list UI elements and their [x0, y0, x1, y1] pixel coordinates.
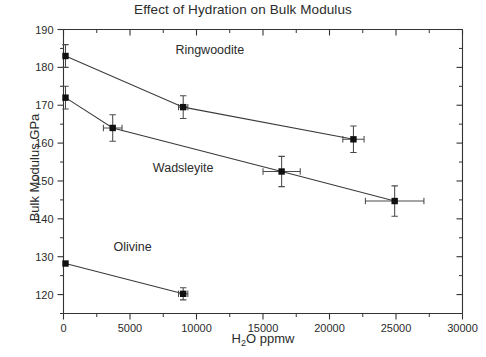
minor-tick-group [60, 30, 463, 318]
series-connector-line [66, 264, 184, 294]
y-tick-label: 120 [35, 289, 53, 301]
data-point-marker [110, 125, 116, 131]
x-axis-label-post: O ppmw [246, 331, 294, 346]
series-label-group: RingwooditeWadsleyiteOlivine [114, 43, 245, 254]
series-connector-line [66, 56, 354, 139]
tick-label-group: 0500010000150002000025000300001201301401… [35, 24, 478, 335]
data-point-marker [180, 291, 186, 297]
data-series [62, 260, 188, 300]
series-connector-line [66, 98, 395, 201]
x-axis-label-pre: H [232, 331, 241, 346]
data-point-marker [62, 260, 68, 266]
data-point-marker [278, 168, 284, 174]
major-tick-group [58, 30, 463, 320]
data-point-marker [350, 136, 356, 142]
y-axis-label: Bulk Modulus GPa [27, 68, 42, 268]
series-annotation-label: Ringwoodite [175, 43, 244, 57]
x-axis-label: H2O ppmw [63, 331, 463, 346]
y-tick-label: 190 [35, 24, 53, 36]
data-point-marker [62, 94, 68, 100]
data-series [62, 86, 424, 216]
series-annotation-label: Olivine [114, 240, 152, 254]
data-point-marker [62, 53, 68, 59]
chart-title: Effect of Hydration on Bulk Modulus [0, 2, 486, 17]
x-axis-label-sub: 2 [241, 338, 246, 348]
data-point-marker [180, 104, 186, 110]
data-series-group [62, 45, 424, 300]
chart-figure: Effect of Hydration on Bulk Modulus Bulk… [0, 0, 486, 357]
data-point-marker [391, 198, 397, 204]
plot-canvas: 0500010000150002000025000300001201301401… [0, 0, 486, 357]
data-series [62, 45, 364, 153]
series-annotation-label: Wadsleyite [153, 161, 214, 175]
